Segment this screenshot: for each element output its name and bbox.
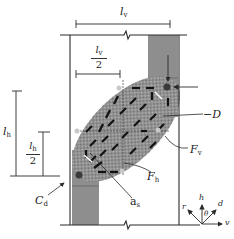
axis-d-label: d	[218, 200, 223, 208]
label-D: −D	[203, 109, 221, 120]
top-node	[164, 84, 171, 91]
fh-node	[120, 169, 125, 174]
axis-v-label: v	[225, 219, 230, 227]
label-lh-half: lh 2	[26, 141, 40, 166]
joint-diagram: lv lv 2 lh lh 2 −D Fv Fh Cd as h r d v θ	[0, 0, 234, 239]
axis-r-label: r	[182, 203, 186, 211]
left-node	[75, 129, 80, 134]
axis-h-label: h	[199, 194, 204, 202]
label-lh: lh	[3, 126, 11, 139]
label-Cd: Cd	[35, 195, 48, 208]
top-left-node	[117, 86, 122, 91]
label-as: as	[130, 196, 140, 209]
bottom-node	[76, 172, 83, 179]
fv-node	[156, 128, 161, 133]
label-lv-half: lv 2	[91, 45, 107, 70]
label-Fv: Fv	[190, 144, 202, 157]
label-Fh: Fh	[147, 171, 159, 184]
axis-theta-label: θ	[204, 211, 208, 218]
label-lv: lv	[120, 6, 128, 19]
